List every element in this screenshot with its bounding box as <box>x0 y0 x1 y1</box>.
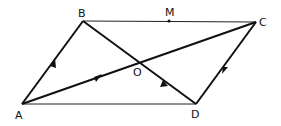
label-d: D <box>191 108 199 121</box>
vector-cd <box>196 22 256 104</box>
arrow-ao <box>94 74 102 82</box>
label-o: O <box>133 66 142 79</box>
point-m <box>168 20 171 23</box>
label-a: A <box>15 109 23 122</box>
parallelogram-diagram: A B C D O M <box>0 0 281 126</box>
label-c: C <box>259 16 267 29</box>
arrow-cd <box>222 67 228 74</box>
diagonal-bd <box>83 21 196 104</box>
label-m: M <box>165 6 175 19</box>
label-b: B <box>78 7 86 20</box>
